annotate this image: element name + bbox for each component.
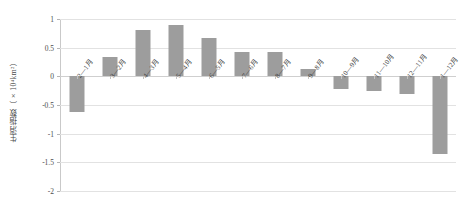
y-tick-label: -1.5 xyxy=(42,158,54,167)
bar-slot xyxy=(192,19,225,191)
y-tick-label: -2 xyxy=(48,187,54,196)
y-tick-mark xyxy=(57,191,60,192)
y-tick-label: 0 xyxy=(50,72,54,81)
y-tick-label: 0.5 xyxy=(45,43,54,52)
bar-slot xyxy=(93,19,126,191)
plot-area: 10.50-0.5-1-1.5-2 2—1月3—2月4—3月5—4月6—5月7—… xyxy=(60,19,456,191)
gridline xyxy=(60,191,456,192)
bar-slot xyxy=(423,19,456,191)
bar xyxy=(69,76,84,112)
bar-chart-figure: 生消指数（×10⁴km²） 10.50-0.5-1-1.5-2 2—1月3—2月… xyxy=(0,0,463,201)
y-tick-label: -1 xyxy=(48,129,54,138)
y-axis-title-text: 生消指数（×10⁴km²） xyxy=(10,58,18,142)
bar-slot xyxy=(390,19,423,191)
bar-slot xyxy=(258,19,291,191)
bar-series xyxy=(60,19,456,191)
bar-slot xyxy=(60,19,93,191)
y-tick-label: 1 xyxy=(50,15,54,24)
bar-slot xyxy=(126,19,159,191)
bar-slot xyxy=(291,19,324,191)
bar-slot xyxy=(159,19,192,191)
y-axis-title: 生消指数（×10⁴km²） xyxy=(6,0,22,201)
bar xyxy=(432,76,447,153)
bar-slot xyxy=(225,19,258,191)
y-tick-label: -0.5 xyxy=(42,101,54,110)
bar-slot xyxy=(357,19,390,191)
bar-slot xyxy=(324,19,357,191)
